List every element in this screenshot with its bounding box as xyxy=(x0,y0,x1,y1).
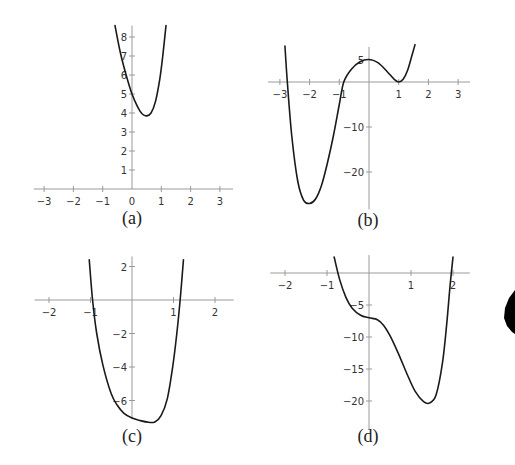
x-tick-label: 2 xyxy=(425,89,431,100)
x-tick-label: 3 xyxy=(217,196,223,207)
curve-c xyxy=(89,260,183,423)
y-tick-label: 2 xyxy=(121,262,127,273)
panel-c: −2−1122−2−4−6 (c) xyxy=(34,256,233,447)
axes-a: −3−2−1012312345678 xyxy=(34,26,233,207)
x-tick-label: 2 xyxy=(212,307,218,318)
x-tick-label: 2 xyxy=(187,196,193,207)
y-tick-label: −15 xyxy=(343,364,364,375)
panel-b: −3−2−11235−10−20 (b) xyxy=(268,45,470,231)
y-tick-label: −4 xyxy=(112,362,127,373)
y-tick-label: −5 xyxy=(349,300,364,311)
x-tick-label: 1 xyxy=(396,89,402,100)
x-tick-label: −2 xyxy=(278,280,293,291)
y-tick-label: 3 xyxy=(121,127,127,138)
x-tick-label: −3 xyxy=(37,196,52,207)
panel-d: −2−112−5−10−15−20 (d) xyxy=(270,255,470,447)
y-tick-label: 1 xyxy=(121,165,127,176)
y-tick-label: −2 xyxy=(112,329,127,340)
axes-d: −2−112−5−10−15−20 xyxy=(270,255,470,430)
x-tick-label: −1 xyxy=(95,196,110,207)
y-tick-label: 8 xyxy=(121,32,127,43)
y-tick-label: 5 xyxy=(121,89,127,100)
x-tick-label: −1 xyxy=(332,89,347,100)
y-tick-label: 4 xyxy=(121,108,127,119)
y-tick-label: −20 xyxy=(343,167,364,178)
x-tick-label: −2 xyxy=(42,307,57,318)
edge-blob-artifact xyxy=(504,290,515,334)
x-tick-label: −3 xyxy=(273,89,288,100)
x-tick-label: 3 xyxy=(455,89,461,100)
panel-a: −3−2−1012312345678 (a) xyxy=(34,26,233,229)
caption-d: (d) xyxy=(358,426,379,447)
caption-a: (a) xyxy=(122,208,142,229)
figure-stage: −3−2−1012312345678 (a) −3−2−11235−10−20 … xyxy=(0,0,515,465)
x-tick-label: −2 xyxy=(66,196,81,207)
x-tick-label: −2 xyxy=(302,89,317,100)
x-tick-label: 1 xyxy=(170,307,176,318)
x-tick-label: 1 xyxy=(158,196,164,207)
curve-d xyxy=(334,257,453,404)
caption-c: (c) xyxy=(122,426,142,447)
y-tick-label: −20 xyxy=(343,396,364,407)
x-tick-label: −1 xyxy=(83,307,98,318)
y-tick-label: −10 xyxy=(343,332,364,343)
x-tick-label: 0 xyxy=(129,196,135,207)
axes-c: −2−1122−2−4−6 xyxy=(34,256,233,418)
caption-b: (b) xyxy=(358,210,379,231)
x-tick-label: 1 xyxy=(408,280,414,291)
x-tick-label: −1 xyxy=(320,280,335,291)
y-tick-label: −10 xyxy=(343,122,364,133)
y-tick-label: 2 xyxy=(121,146,127,157)
